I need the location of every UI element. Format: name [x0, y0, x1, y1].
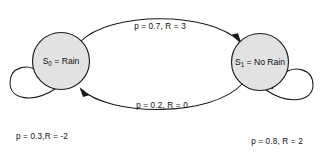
transition-label-s0-to-s1: p = 0.7, R = 3	[134, 22, 186, 31]
state-node-s0-equals: =	[52, 56, 62, 66]
transition-label-s0-self-loop: p = 0.3,R = -2	[16, 132, 68, 141]
state-node-s1-equals: =	[244, 57, 254, 67]
state-node-s0-label: S0 = Rain	[43, 56, 80, 67]
transition-label-s1-to-s0: p = 0.2, R = 0	[136, 101, 188, 110]
diagram-canvas: S0 = Rain S1 = No Rain p = 0.7, R = 3 p …	[0, 0, 320, 152]
state-node-s1-name: No Rain	[254, 57, 285, 67]
state-node-s0-name: Rain	[62, 56, 80, 66]
state-node-s1[interactable]: S1 = No Rain	[232, 34, 289, 91]
mdp-state-diagram: S0 = Rain S1 = No Rain p = 0.7, R = 3 p …	[0, 0, 320, 152]
state-node-s0[interactable]: S0 = Rain	[33, 33, 90, 90]
transition-label-s1-self-loop: p = 0.8, R = 2	[251, 137, 303, 146]
transition-s1-to-s0-arrowhead	[80, 88, 90, 97]
